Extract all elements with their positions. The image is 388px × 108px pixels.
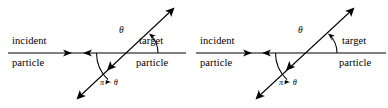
target-label-bottom: particle: [136, 57, 168, 68]
recoil-arrowhead-icon: [286, 61, 295, 71]
target-label-bottom: particle: [339, 57, 371, 68]
pi-minus-theta-label: π − θ: [100, 78, 118, 87]
incident-label-bottom: particle: [12, 57, 44, 68]
incident-label-top: incident: [12, 35, 47, 46]
panel-right-vectors: [194, 0, 388, 108]
scattering-panel-right: incident particle target particle θ π − …: [194, 0, 388, 108]
theta-label: θ: [298, 25, 303, 35]
target-label-top: target: [139, 35, 163, 46]
panel-left-vectors: [0, 0, 194, 108]
target-label-top: target: [342, 35, 366, 46]
theta-label: θ: [119, 25, 124, 35]
pi-minus-theta-label: π − θ: [279, 78, 297, 87]
incident-label-top: incident: [200, 35, 235, 46]
recoil-arrowhead-icon: [107, 61, 116, 71]
incident-label-bottom: particle: [200, 57, 232, 68]
scattering-figure: incident particle target particle θ π − …: [0, 0, 388, 108]
scattering-panel-left: incident particle target particle θ π − …: [0, 0, 194, 108]
